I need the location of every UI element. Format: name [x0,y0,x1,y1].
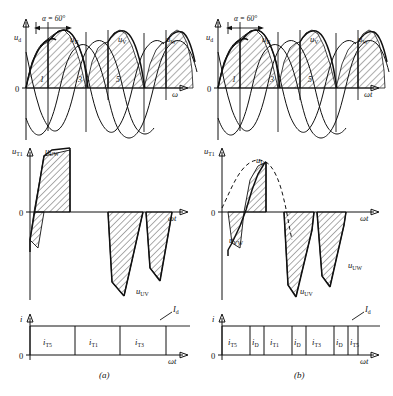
caption-b: (b) [294,370,305,380]
thyristor-mark-1-a: 1 [40,75,44,84]
current-seg-label-b-4: iT3 [312,337,321,348]
panel-a-mid-chart: uT1 0 ωt uUW uUV [12,146,188,300]
current-seg-label-b-3: iD [294,337,301,348]
u-u-curve-label-b: uU [256,155,265,166]
u-uv-curve-label-b: uUV [300,286,313,297]
thyristor-mark-5-a: 5 [116,75,120,84]
thyristor-mark-3-a: 3 [77,75,82,84]
i-axis-label-b: i [212,314,215,324]
origin-label-a-top: 0 [15,84,19,94]
omegat-axis-label-b-bot: ωt [360,356,369,366]
panel-a-top-chart: α = 60° ud 0 ω uU uV uW 1 3 5 [14,14,197,140]
panel-b-top-chart: α = 60° ud 0 ωt uU uV uW 1 3 5 [206,14,389,140]
id-level-label-a: Id [172,304,179,315]
u-uv-curve-label-a: uUV [136,286,149,297]
origin-label-a-mid: 0 [19,208,23,218]
origin-label-b-bot: 0 [211,351,215,361]
origin-label-b-mid: 0 [211,208,215,218]
phase-u-label-a: uU [70,34,79,45]
id-level-label-b: Id [364,304,371,315]
current-seg-label-b-2: iT1 [270,337,279,348]
thyristor-mark-3-b: 3 [269,75,274,84]
omegat-axis-label-a-mid: ωt [168,213,177,223]
current-seg-label-a-1: iT1 [89,337,98,348]
caption-a: (a) [99,370,110,380]
firing-angle-label-b: α = 60° [234,14,257,23]
panel-b-bottom-chart: i 0 ωt Id iT5 iD iT1 iD iT3 iD iT5 [211,304,380,366]
firing-angle-label-a: α = 60° [42,14,65,23]
thyristor-mark-1-b: 1 [232,75,236,84]
current-seg-label-b-5: iD [336,337,343,348]
current-seg-label-a-2: iT3 [135,337,144,348]
panel-b-bottom-axes [218,314,379,360]
ut1-axis-label-b: uT1 [204,146,215,157]
omegat-axis-label-b: ωt [364,89,373,99]
omegat-axis-label-a-bot: ωt [168,356,177,366]
panel-a-bottom-chart: i 0 ωt Id iT5 iT1 iT3 [19,304,190,366]
ud-axis-label-b: ud [206,32,213,43]
current-seg-label-b-0: iT5 [228,337,237,348]
panel-a-current-block [30,312,190,355]
ud-axis-label-a: ud [14,32,21,43]
phase-u-label-b: uU [262,34,271,45]
origin-label-b-top: 0 [207,84,211,94]
omegat-axis-label-b-mid: ωt [360,213,369,223]
origin-label-a-bot: 0 [19,351,23,361]
u-uw-curve-label-a: uUW [45,146,59,157]
panel-a-mid-hatch-regions [30,150,172,296]
panel-a-bottom-axes [26,314,188,360]
omega-axis-label-a: ω [172,89,178,99]
panel-b-current-block [222,312,380,355]
i-axis-label-a: i [20,314,23,324]
thyristor-mark-5-b: 5 [308,75,312,84]
figure-canvas: α = 60° ud 0 ω uU uV uW 1 3 5 [0,0,393,396]
current-seg-label-a-0: iT5 [43,337,52,348]
rectifier-waveform-figure: α = 60° ud 0 ω uU uV uW 1 3 5 [0,0,393,396]
current-seg-label-b-1: iD [252,337,259,348]
u-uw-curve-label-b: uUW [348,260,362,271]
panel-b-mid-chart: uT1 0 ωt uVW uU uUV uUW [204,146,379,300]
ut1-axis-label-a: uT1 [12,146,23,157]
